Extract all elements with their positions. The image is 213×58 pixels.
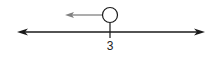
tick-label: 3 xyxy=(107,39,114,53)
number-line-diagram: 3 xyxy=(0,0,213,58)
open-circle-endpoint xyxy=(103,8,118,23)
